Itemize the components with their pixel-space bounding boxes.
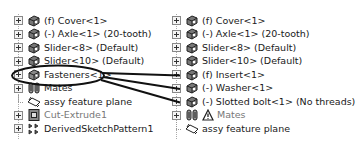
tree-item-cut-extrude[interactable]: Cut-Extrude1 [14, 109, 153, 123]
expand-icon[interactable] [14, 16, 23, 25]
tree-item-slider-8[interactable]: Slider<8> (Default) [172, 41, 355, 55]
tree-item-assy-feature-plane[interactable]: assy feature plane [14, 95, 153, 109]
tree-item-insert[interactable]: (f) Insert<1> [172, 68, 355, 82]
expand-icon[interactable] [14, 70, 23, 79]
expand-icon[interactable] [14, 111, 23, 120]
pattern-icon [27, 123, 41, 135]
part-icon [185, 28, 199, 40]
expand-icon[interactable] [14, 43, 23, 52]
tree-item-slider-10[interactable]: Slider<10> (Default) [172, 55, 355, 69]
expand-icon[interactable] [172, 111, 181, 120]
left-feature-tree: (f) Cover<1> (-) Axle<1> (20-tooth) Slid… [14, 14, 153, 136]
tree-item-mates[interactable]: Mates [172, 109, 355, 123]
tree-item-label: Mates [217, 109, 246, 121]
tree-item-label: assy feature plane [44, 96, 132, 108]
expand-icon[interactable] [14, 57, 23, 66]
expand-icon[interactable] [172, 84, 181, 93]
tree-item-cover[interactable]: (f) Cover<1> [14, 14, 153, 28]
tree-item-label: (-) Washer<1> [202, 82, 273, 94]
tree-item-label: (-) Slotted bolt<1> (No threads) [202, 96, 355, 108]
expand-icon[interactable] [172, 70, 181, 79]
tree-item-cover[interactable]: (f) Cover<1> [172, 14, 355, 28]
expand-icon[interactable] [172, 30, 181, 39]
tree-item-label: Slider<8> (Default) [44, 42, 138, 54]
part-icon [27, 55, 41, 67]
tree-item-washer[interactable]: (-) Washer<1> [172, 82, 355, 96]
tree-item-label: (f) Cover<1> [44, 15, 108, 27]
cut-extrude-icon [27, 109, 41, 121]
part-icon [185, 15, 199, 27]
expand-icon[interactable] [172, 57, 181, 66]
part-icon [185, 82, 199, 94]
tree-item-axle[interactable]: (-) Axle<1> (20-tooth) [14, 28, 153, 42]
tree-connector [14, 95, 23, 108]
tree-connector [172, 122, 181, 135]
subassembly-icon [27, 69, 41, 81]
tree-item-axle[interactable]: (-) Axle<1> (20-tooth) [172, 28, 355, 42]
part-icon [185, 69, 199, 81]
part-icon [27, 15, 41, 27]
tree-item-label: (-) Axle<1> (20-tooth) [44, 28, 151, 40]
part-icon [27, 42, 41, 54]
plane-icon [27, 96, 41, 108]
part-icon [185, 42, 199, 54]
part-icon [185, 96, 199, 108]
tree-item-label: Fasteners<1> [44, 69, 112, 81]
tree-item-label: (f) Insert<1> [202, 69, 265, 81]
expand-icon[interactable] [14, 30, 23, 39]
part-icon [27, 28, 41, 40]
tree-item-label: Cut-Extrude1 [44, 109, 107, 121]
tree-item-slider-10[interactable]: Slider<10> (Default) [14, 55, 153, 69]
tree-item-slider-8[interactable]: Slider<8> (Default) [14, 41, 153, 55]
right-feature-tree: (f) Cover<1> (-) Axle<1> (20-tooth) Slid… [172, 14, 355, 136]
tree-item-slotted-bolt[interactable]: (-) Slotted bolt<1> (No threads) [172, 95, 355, 109]
tree-item-fasteners[interactable]: Fasteners<1> [14, 68, 153, 82]
expand-icon[interactable] [172, 16, 181, 25]
expand-icon[interactable] [172, 97, 181, 106]
plane-icon [185, 123, 199, 135]
tree-item-label: (-) Axle<1> (20-tooth) [202, 28, 309, 40]
tree-item-label: Slider<10> (Default) [44, 55, 144, 67]
tree-item-label: (f) Cover<1> [202, 15, 266, 27]
tree-item-label: DerivedSketchPattern1 [44, 123, 153, 135]
part-icon [185, 55, 199, 67]
tree-item-label: Mates [44, 82, 73, 94]
tree-item-assy-feature-plane[interactable]: assy feature plane [172, 122, 355, 136]
tree-item-derived-sketch-pattern[interactable]: DerivedSketchPattern1 [14, 122, 153, 136]
mates-icon [27, 82, 41, 94]
mates-icon [185, 109, 199, 121]
tree-item-label: Slider<10> (Default) [202, 55, 302, 67]
tree-item-mates[interactable]: Mates [14, 82, 153, 96]
expand-icon[interactable] [14, 84, 23, 93]
expand-icon[interactable] [14, 124, 23, 133]
tree-item-label: Slider<8> (Default) [202, 42, 296, 54]
warning-icon [202, 109, 214, 121]
expand-icon[interactable] [172, 43, 181, 52]
tree-item-label: assy feature plane [202, 123, 290, 135]
